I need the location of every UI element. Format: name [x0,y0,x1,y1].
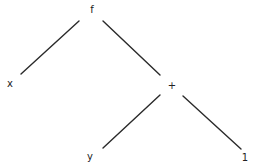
node-one: 1 [242,153,248,163]
node-f: f [90,5,94,15]
edge-f-x [21,21,79,74]
node-plus: + [168,81,176,91]
expression-tree [0,0,259,168]
edge-plus-y [103,95,160,148]
node-x: x [7,79,13,89]
node-y: y [87,152,93,162]
edge-plus-one [183,96,241,149]
edge-f-plus [103,21,160,75]
